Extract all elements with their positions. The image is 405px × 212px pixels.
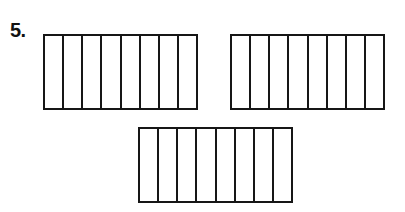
fraction-part xyxy=(160,36,179,108)
fraction-part xyxy=(309,36,328,108)
fraction-part xyxy=(64,36,83,108)
fraction-part xyxy=(347,36,366,108)
fraction-part xyxy=(140,129,159,201)
fraction-part xyxy=(122,36,141,108)
fraction-part xyxy=(83,36,102,108)
fraction-part xyxy=(255,129,274,201)
problem-number: 5. xyxy=(10,19,26,42)
fraction-part xyxy=(217,129,236,201)
fraction-bar-1 xyxy=(43,34,198,110)
fraction-part xyxy=(251,36,270,108)
fraction-part xyxy=(236,129,255,201)
fraction-part xyxy=(289,36,308,108)
fraction-bar-2 xyxy=(230,34,385,110)
fraction-part xyxy=(197,129,216,201)
fraction-part xyxy=(366,36,383,108)
fraction-part xyxy=(274,129,291,201)
fraction-part xyxy=(270,36,289,108)
fraction-bar-3 xyxy=(138,127,293,203)
fraction-part xyxy=(178,129,197,201)
fraction-part xyxy=(232,36,251,108)
fraction-part xyxy=(141,36,160,108)
fraction-part xyxy=(159,129,178,201)
fraction-part xyxy=(102,36,121,108)
fraction-part xyxy=(328,36,347,108)
fraction-part xyxy=(45,36,64,108)
fraction-part xyxy=(179,36,196,108)
